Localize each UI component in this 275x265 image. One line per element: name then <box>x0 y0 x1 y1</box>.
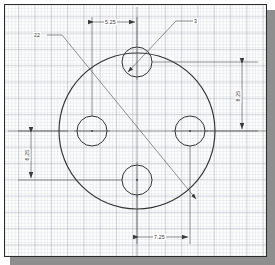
bolt-holes <box>77 47 205 195</box>
drawing-canvas: 5.25 8.25 6.25 7.25 22 3 <box>0 0 275 265</box>
leader-plate-diameter-label: 22 <box>33 32 41 38</box>
hole-centerline-marks <box>74 44 208 198</box>
leader-plate-diameter-group <box>47 35 196 199</box>
dimension-5-25-label: 5.25 <box>104 19 117 25</box>
technical-drawing <box>0 0 275 265</box>
dimension-8-25-group <box>152 62 258 131</box>
dimension-7-25-label: 7.25 <box>153 234 166 240</box>
hole-center-marks <box>91 130 191 181</box>
dimension-6-25-label: 6.25 <box>24 149 30 162</box>
dimension-8-25-label: 8.25 <box>235 90 241 103</box>
dimension-5-25-group <box>92 17 137 116</box>
dimension-6-25-group <box>18 131 122 180</box>
leader-22-diameter-line <box>62 35 196 199</box>
leader-hole-diameter-group <box>128 21 193 72</box>
leader-hole-diameter-label: 3 <box>193 18 198 24</box>
